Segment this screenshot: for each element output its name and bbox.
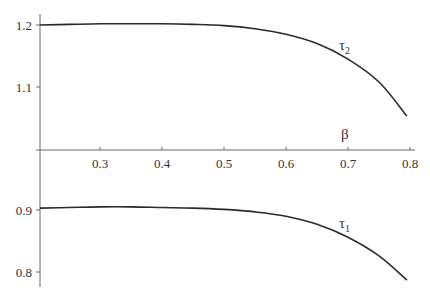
x-axis-label: β <box>341 126 349 142</box>
curve-label-tau2: τ2 <box>339 37 350 56</box>
x-tick-label: 0.4 <box>154 156 171 171</box>
y-axis-ticks: 1.21.10.90.8 <box>16 18 40 280</box>
y-tick-label: 1.2 <box>16 18 32 33</box>
line-chart: 0.30.40.50.60.70.8 1.21.10.90.8 β τ2 τ1 <box>0 0 430 300</box>
y-tick-label: 0.8 <box>16 265 32 280</box>
curve-tau1 <box>40 207 407 280</box>
curve-label-tau1: τ1 <box>339 215 350 234</box>
curve-tau2 <box>40 24 407 116</box>
x-tick-label: 0.3 <box>92 156 108 171</box>
y-tick-label: 1.1 <box>16 80 32 95</box>
x-axis-ticks: 0.30.40.50.60.70.8 <box>92 147 418 171</box>
x-tick-label: 0.8 <box>402 156 418 171</box>
x-tick-label: 0.7 <box>340 156 357 171</box>
x-tick-label: 0.5 <box>216 156 232 171</box>
x-tick-label: 0.6 <box>278 156 295 171</box>
y-tick-label: 0.9 <box>16 203 32 218</box>
